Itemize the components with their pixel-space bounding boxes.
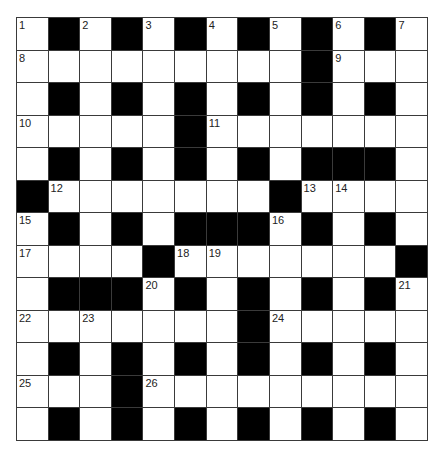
crossword-cell[interactable] (112, 181, 143, 213)
crossword-cell[interactable] (302, 116, 333, 148)
crossword-cell[interactable] (365, 246, 396, 278)
crossword-cell[interactable] (270, 83, 301, 115)
crossword-cell[interactable] (396, 51, 427, 83)
crossword-cell[interactable]: 13 (302, 181, 333, 213)
crossword-cell[interactable] (17, 408, 48, 440)
crossword-cell[interactable] (333, 408, 364, 440)
crossword-cell[interactable] (207, 181, 238, 213)
crossword-cell[interactable] (80, 181, 111, 213)
crossword-cell[interactable] (365, 376, 396, 408)
crossword-cell[interactable] (80, 376, 111, 408)
crossword-cell[interactable] (333, 83, 364, 115)
crossword-cell[interactable] (270, 278, 301, 310)
crossword-cell[interactable] (238, 246, 269, 278)
crossword-cell[interactable] (143, 148, 174, 180)
crossword-cell[interactable] (207, 278, 238, 310)
crossword-cell[interactable] (207, 408, 238, 440)
crossword-cell[interactable] (365, 51, 396, 83)
crossword-cell[interactable] (333, 246, 364, 278)
crossword-cell[interactable]: 24 (270, 311, 301, 343)
crossword-cell[interactable] (143, 181, 174, 213)
crossword-cell[interactable]: 10 (17, 116, 48, 148)
crossword-cell[interactable] (270, 51, 301, 83)
crossword-cell[interactable] (143, 408, 174, 440)
crossword-cell[interactable] (333, 116, 364, 148)
crossword-cell[interactable]: 5 (270, 18, 301, 50)
crossword-cell[interactable]: 6 (333, 18, 364, 50)
crossword-cell[interactable] (112, 51, 143, 83)
crossword-cell[interactable] (207, 51, 238, 83)
crossword-cell[interactable]: 17 (17, 246, 48, 278)
crossword-cell[interactable] (143, 116, 174, 148)
crossword-cell[interactable]: 4 (207, 18, 238, 50)
crossword-cell[interactable] (175, 181, 206, 213)
crossword-cell[interactable] (175, 51, 206, 83)
crossword-cell[interactable] (207, 343, 238, 375)
crossword-cell[interactable]: 20 (143, 278, 174, 310)
crossword-cell[interactable]: 2 (80, 18, 111, 50)
crossword-cell[interactable] (270, 148, 301, 180)
crossword-cell[interactable] (207, 148, 238, 180)
crossword-cell[interactable] (396, 83, 427, 115)
crossword-cell[interactable] (238, 376, 269, 408)
crossword-cell[interactable]: 8 (17, 51, 48, 83)
crossword-cell[interactable] (270, 116, 301, 148)
crossword-cell[interactable] (80, 343, 111, 375)
crossword-cell[interactable] (238, 51, 269, 83)
crossword-cell[interactable]: 19 (207, 246, 238, 278)
crossword-cell[interactable] (270, 343, 301, 375)
crossword-cell[interactable] (302, 311, 333, 343)
crossword-cell[interactable] (143, 343, 174, 375)
crossword-cell[interactable] (238, 116, 269, 148)
crossword-cell[interactable] (396, 181, 427, 213)
crossword-cell[interactable]: 11 (207, 116, 238, 148)
crossword-cell[interactable] (80, 148, 111, 180)
crossword-cell[interactable]: 25 (17, 376, 48, 408)
crossword-cell[interactable] (396, 408, 427, 440)
crossword-cell[interactable] (302, 246, 333, 278)
crossword-cell[interactable]: 7 (396, 18, 427, 50)
crossword-cell[interactable] (207, 83, 238, 115)
crossword-cell[interactable] (175, 376, 206, 408)
crossword-cell[interactable] (112, 246, 143, 278)
crossword-cell[interactable]: 26 (143, 376, 174, 408)
crossword-cell[interactable] (333, 278, 364, 310)
crossword-cell[interactable] (80, 83, 111, 115)
crossword-cell[interactable] (302, 376, 333, 408)
crossword-cell[interactable] (207, 376, 238, 408)
crossword-cell[interactable] (49, 246, 80, 278)
crossword-cell[interactable] (207, 311, 238, 343)
crossword-cell[interactable] (270, 376, 301, 408)
crossword-cell[interactable]: 15 (17, 213, 48, 245)
crossword-cell[interactable] (112, 311, 143, 343)
crossword-cell[interactable] (49, 311, 80, 343)
crossword-cell[interactable] (80, 408, 111, 440)
crossword-cell[interactable] (80, 116, 111, 148)
crossword-cell[interactable] (396, 376, 427, 408)
crossword-cell[interactable] (333, 343, 364, 375)
crossword-cell[interactable] (17, 148, 48, 180)
crossword-cell[interactable] (80, 51, 111, 83)
crossword-cell[interactable] (396, 343, 427, 375)
crossword-cell[interactable]: 22 (17, 311, 48, 343)
crossword-cell[interactable]: 3 (143, 18, 174, 50)
crossword-cell[interactable] (49, 376, 80, 408)
crossword-cell[interactable] (333, 213, 364, 245)
crossword-cell[interactable] (396, 213, 427, 245)
crossword-cell[interactable]: 23 (80, 311, 111, 343)
crossword-cell[interactable]: 14 (333, 181, 364, 213)
crossword-cell[interactable] (80, 213, 111, 245)
crossword-cell[interactable] (396, 148, 427, 180)
crossword-cell[interactable]: 21 (396, 278, 427, 310)
crossword-cell[interactable] (238, 181, 269, 213)
crossword-cell[interactable] (143, 83, 174, 115)
crossword-cell[interactable] (270, 246, 301, 278)
crossword-cell[interactable] (333, 311, 364, 343)
crossword-cell[interactable] (365, 311, 396, 343)
crossword-cell[interactable] (80, 246, 111, 278)
crossword-cell[interactable] (17, 278, 48, 310)
crossword-cell[interactable] (365, 181, 396, 213)
crossword-cell[interactable] (49, 116, 80, 148)
crossword-cell[interactable] (143, 311, 174, 343)
crossword-cell[interactable] (49, 51, 80, 83)
